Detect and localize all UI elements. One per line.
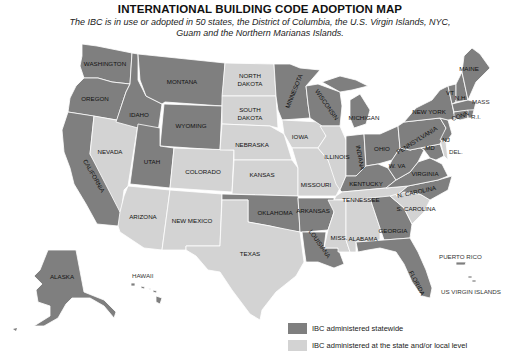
label-west-virginia: W. VA [389, 162, 407, 169]
label-nebraska: NEBRASKA [235, 141, 270, 148]
label-maryland: MD [425, 144, 435, 151]
label-us-virgin-islands: US VIRGIN ISLANDS [441, 288, 501, 295]
label-colorado: COLORADO [185, 168, 221, 175]
label-virginia: VIRGINIA [411, 170, 439, 177]
label-arizona: ARIZONA [129, 213, 157, 220]
label-utah: UTAH [144, 158, 160, 165]
label-texas: TEXAS [240, 250, 260, 257]
label-massachusetts: MASS [472, 98, 490, 105]
label-wyoming: WYOMING [176, 122, 207, 129]
label-delaware: DEL. [449, 148, 463, 155]
label-oregon: OREGON [81, 95, 109, 102]
label-kansas: KANSAS [249, 171, 274, 178]
label-arkansas: ARKANSAS [296, 207, 330, 214]
label-vermont: VT [446, 89, 454, 96]
legend-swatch-statewide [288, 323, 307, 334]
aleutian-islet [13, 328, 17, 331]
label-montana: MONTANA [167, 78, 198, 85]
label-oklahoma: OKLAHOMA [257, 209, 293, 216]
state-arkansas[interactable] [298, 198, 334, 232]
legend: IBC administered statewide IBC administe… [288, 320, 467, 354]
label-south-dakota-2: DAKOTA [238, 114, 264, 121]
label-ohio: OHIO [374, 145, 390, 152]
label-north-dakota-1: NORTH [239, 72, 261, 79]
label-tennessee: TENNESSEE [342, 196, 379, 203]
legend-label-local: IBC administered at the state and/or loc… [312, 341, 467, 350]
label-illinois: ILLINOIS [324, 153, 349, 160]
territory-puerto-rico[interactable] [456, 262, 466, 265]
label-new-york: NEW YORK [412, 108, 446, 115]
label-puerto-rico: PUERTO RICO [439, 253, 482, 260]
label-mississippi: MISS. [331, 234, 348, 241]
label-georgia: GEORGIA [379, 227, 409, 234]
label-maine: MAINE [459, 65, 479, 72]
label-kentucky: KENTUCKY [349, 180, 383, 187]
label-south-dakota-1: SOUTH [239, 106, 261, 113]
state-hawaii[interactable] [131, 283, 162, 304]
label-washington: WASHINGTON [84, 60, 126, 67]
legend-swatch-local [288, 340, 307, 351]
territory-us-virgin-islands[interactable] [468, 276, 476, 282]
label-new-jersey: NJ [442, 136, 450, 143]
legend-item-local: IBC administered at the state and/or loc… [288, 337, 467, 353]
label-south-carolina: S. CAROLINA [396, 205, 436, 212]
legend-label-statewide: IBC administered statewide [312, 324, 403, 333]
label-nevada: NEVADA [98, 148, 124, 155]
label-iowa: IOWA [292, 133, 309, 140]
label-alaska: ALASKA [50, 273, 75, 280]
label-alabama: ALABAMA [348, 235, 378, 242]
label-rhode-island: R.I. [471, 113, 481, 120]
label-north-dakota-2: DAKOTA [238, 80, 264, 87]
label-idaho: IDAHO [129, 111, 149, 118]
state-maine[interactable] [462, 48, 490, 100]
state-alaska[interactable] [34, 250, 116, 326]
us-map: WASHINGTON OREGON CALIFORNIA IDAHO NEVAD… [0, 0, 520, 362]
label-new-hampshire: N.H. [455, 94, 468, 101]
legend-item-statewide: IBC administered statewide [288, 320, 467, 336]
label-missouri: MISSOURI [301, 181, 332, 188]
label-hawaii: HAWAII [132, 272, 154, 279]
state-kansas[interactable] [232, 160, 298, 196]
label-new-mexico: NEW MEXICO [172, 217, 213, 224]
label-michigan: MICHIGAN [349, 114, 380, 121]
